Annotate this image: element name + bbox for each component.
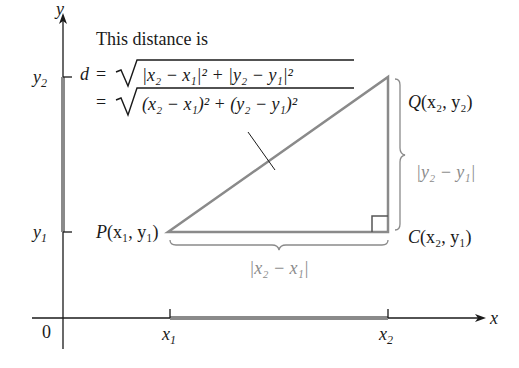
caption-intro: This distance is [96,29,208,49]
distance-formula-diagram: y x 0 y2 y1 x1 x2 This distance is d = |… [0,0,519,368]
vertical-brace [395,79,405,230]
point-q-label: Q(x₂, y₂) [408,92,473,113]
formula-radicand-2: (x₂ − x₁)² + (y₂ − y₁)² [142,94,298,115]
formula-eq-1: = [96,64,106,84]
point-c-label: C(x₂, y₁) [408,227,472,248]
right-angle-marker [372,216,388,232]
horizontal-distance-label: |x₂ − x₁| [249,258,309,278]
hypotenuse-pointer [248,132,275,170]
y1-tick-label: y1 [31,222,47,245]
x2-tick-label: x2 [378,324,393,347]
x1-tick-label: x1 [161,324,176,347]
formula-lhs: d [80,64,90,84]
origin-label: 0 [42,322,51,342]
x-axis [32,309,486,322]
y-axis [59,13,72,349]
formula-line-1: d = |x₂ − x₁|² + |y₂ − y₁|² [80,60,354,86]
vertical-distance-label: |y₂ − y₁| [416,162,476,182]
y-axis-label: y [54,0,64,19]
horizontal-brace [170,240,388,250]
y2-tick-label: y2 [31,67,47,90]
formula-radicand-1: |x₂ − x₁|² + |y₂ − y₁|² [142,65,294,85]
point-p-label: P(x₁, y₁) [95,222,159,243]
formula-line-2: = (x₂ − x₁)² + (y₂ − y₁)² [96,88,354,115]
formula-eq-2: = [96,92,106,112]
x-axis-label: x [489,308,498,328]
